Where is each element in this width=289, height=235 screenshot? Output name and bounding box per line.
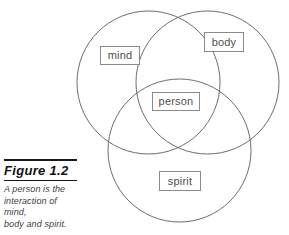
caption-rule-bottom [4, 180, 77, 181]
venn-label-mind: mind [100, 46, 140, 65]
venn-label-mind-text: mind [108, 50, 133, 61]
figure-caption-line: body and spirit. [4, 219, 77, 231]
venn-label-person-text: person [159, 96, 194, 107]
figure-container: mind body person spirit Figure 1.2 A per… [0, 0, 289, 235]
figure-caption-line: A person is the [4, 184, 77, 196]
venn-label-person: person [152, 92, 200, 111]
figure-caption: Figure 1.2 A person is the interaction o… [4, 159, 77, 230]
venn-label-body: body [204, 32, 244, 52]
figure-caption-body: A person is the interaction of mind, bod… [4, 184, 77, 230]
venn-label-spirit: spirit [159, 171, 201, 191]
caption-rule-top [4, 159, 77, 161]
figure-caption-title: Figure 1.2 [4, 163, 77, 178]
figure-caption-line: interaction of mind, [4, 196, 77, 219]
venn-label-spirit-text: spirit [168, 176, 192, 187]
venn-label-body-text: body [212, 37, 237, 48]
venn-circle-mind [77, 11, 220, 154]
